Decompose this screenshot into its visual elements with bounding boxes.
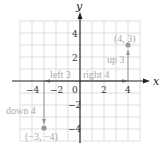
- y-tick-label: 4: [72, 29, 78, 39]
- point-label: (−3, −4): [25, 131, 58, 143]
- annotation-up: up 3: [107, 54, 125, 65]
- up-arrowhead-icon: [126, 49, 130, 55]
- y-axis-arrowhead-icon: [78, 12, 83, 19]
- y-tick-label: −4: [68, 124, 82, 134]
- annotation-down: down 4: [6, 105, 36, 116]
- x-tick-label: −4: [26, 85, 40, 95]
- annotation-right: right 4: [83, 69, 109, 80]
- x-tick-label: 0: [72, 85, 78, 95]
- coordinate-plane: x y −4 −2 0 2 4 4 2 −2 −4 (4, 3) (−3, −4…: [0, 0, 163, 152]
- point-neg3-neg4: [41, 125, 46, 130]
- x-tick-label: 2: [101, 85, 107, 95]
- x-tick-label: 4: [125, 85, 131, 95]
- down-arrowhead-icon: [42, 119, 46, 125]
- y-tick-label: −2: [68, 100, 81, 110]
- annotation-left: left 3: [50, 69, 71, 80]
- point-label: (4, 3): [114, 33, 136, 45]
- x-axis-label: x: [153, 75, 160, 88]
- y-axis-label: y: [75, 0, 83, 13]
- y-tick-label: 2: [72, 53, 78, 63]
- x-tick-label: −2: [50, 85, 63, 95]
- x-axis-arrowhead-icon: [143, 79, 150, 84]
